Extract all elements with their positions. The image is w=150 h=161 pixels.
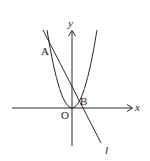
x-axis-label: x (135, 102, 140, 113)
line-l-label: l (105, 145, 108, 156)
point-b-label: B (80, 96, 87, 107)
point-a-label: A (41, 46, 49, 57)
y-axis-label: y (68, 18, 73, 29)
origin-label: O (61, 110, 69, 121)
coordinate-diagram (0, 0, 150, 161)
